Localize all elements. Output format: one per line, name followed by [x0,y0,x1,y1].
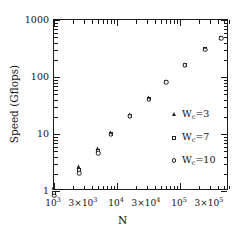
tick-mark [224,29,228,30]
x-tick-label: 104 [108,196,124,208]
tick-mark [224,60,228,61]
circle-marker-icon [109,133,114,138]
tick-mark [224,107,228,108]
data-point [203,48,208,53]
tick-mark [117,183,118,189]
data-point [128,114,133,119]
x-tick-label: 3×103 [69,196,98,208]
tick-mark [92,186,93,190]
tick-mark [54,80,58,81]
tick-mark [180,20,181,26]
circle-marker-icon [203,48,208,53]
tick-mark [199,186,200,190]
tick-mark [84,186,85,190]
tick-mark [210,186,211,190]
legend-item-2: Wc=10 [168,149,215,172]
circle-marker-icon [172,158,177,163]
legend-item-0: Wc=3 [168,103,215,126]
legend: Wc=3Wc=7Wc=10 [168,103,215,172]
data-point [77,171,82,176]
tick-mark [73,20,74,24]
legend-marker [168,136,180,140]
tick-mark [111,20,112,24]
tick-mark [111,186,112,190]
legend-label: Wc=3 [182,108,209,121]
tick-mark [54,94,58,95]
tick-mark [54,29,58,30]
tick-mark [224,90,228,91]
legend-label: Wc=10 [182,154,215,167]
tick-mark [54,50,58,51]
y-tick-label: 1000 [25,14,49,25]
circle-marker-icon [164,80,169,85]
tick-mark [177,20,178,24]
tick-mark [224,33,228,34]
data-point [109,133,114,138]
tick-mark [54,43,58,44]
tick-mark [224,157,228,158]
data-point [164,80,169,85]
tick-mark [54,151,58,152]
circle-marker-icon [219,36,224,41]
tick-mark [224,20,225,24]
tick-mark [174,186,175,190]
circle-marker-icon [77,171,82,176]
tick-mark [155,20,156,24]
y-tick-label: 1 [43,185,49,196]
tick-mark [54,83,58,84]
tick-mark [84,20,85,24]
y-tick-label: 10 [37,128,49,139]
tick-mark [103,20,104,24]
tick-mark [224,147,228,148]
tick-mark [54,157,58,158]
tick-mark [54,33,58,34]
tick-mark [218,20,219,24]
tick-mark [92,20,93,24]
tick-mark [221,77,227,78]
tick-mark [54,140,58,141]
tick-mark [54,60,58,61]
x-axis-title: N [0,214,245,226]
legend-item-1: Wc=7 [168,126,215,149]
tick-mark [54,174,58,175]
square-marker-icon [172,136,176,140]
tick-mark [155,186,156,190]
tick-mark [224,117,228,118]
tick-mark [221,134,227,135]
tick-mark [229,20,230,24]
tick-mark [224,137,228,138]
tick-mark [114,20,115,24]
legend-marker [168,158,180,163]
tick-mark [98,20,99,24]
tick-mark [224,140,228,141]
tick-mark [54,164,58,165]
tick-mark [224,100,228,101]
data-point [96,151,101,156]
data-point [219,36,224,41]
circle-marker-icon [147,97,152,102]
tick-mark [224,143,228,144]
tick-mark [98,186,99,190]
legend-label: Wc=7 [182,131,209,144]
data-point [183,63,188,68]
data-point [52,185,57,190]
tick-mark [54,107,58,108]
tick-mark [54,147,58,148]
scatter-plot-figure: 1101001000 1033×1031043×1041053×105 Wc=3… [0,0,245,233]
tick-mark [136,186,137,190]
data-point [147,97,152,102]
circle-marker-icon [96,151,101,156]
tick-mark [103,186,104,190]
tick-mark [54,20,55,26]
tick-mark [54,90,58,91]
tick-mark [229,186,230,190]
tick-mark [224,50,228,51]
tick-mark [221,191,227,192]
tick-mark [224,43,228,44]
tick-mark [224,94,228,95]
tick-mark [224,37,228,38]
tick-mark [73,186,74,190]
tick-mark [224,151,228,152]
tick-mark [161,186,162,190]
tick-mark [224,86,228,87]
